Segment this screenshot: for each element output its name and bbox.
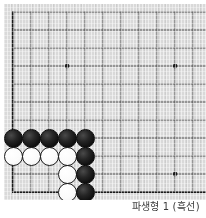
caption-prefix: 파생형 (132, 201, 160, 212)
caption-number: 1 (160, 201, 173, 212)
go-board[interactable] (4, 4, 206, 200)
caption-suffix: (흑선) (173, 201, 200, 212)
white-stone[interactable] (58, 165, 77, 184)
black-stone[interactable] (40, 129, 59, 148)
white-stone[interactable] (58, 147, 77, 166)
black-stone[interactable] (76, 147, 95, 166)
white-stone[interactable] (22, 147, 41, 166)
black-stone[interactable] (76, 129, 95, 148)
white-stone[interactable] (40, 147, 59, 166)
board-grid (4, 4, 206, 200)
black-stone[interactable] (4, 129, 23, 148)
black-stone[interactable] (58, 129, 77, 148)
black-stone[interactable] (76, 183, 95, 201)
figure-caption: 파생형1(흑선) (0, 200, 206, 213)
black-stone[interactable] (76, 165, 95, 184)
black-stone[interactable] (22, 129, 41, 148)
go-diagram-figure: 파생형1(흑선) (0, 0, 206, 218)
white-stone[interactable] (58, 183, 77, 201)
white-stone[interactable] (4, 147, 23, 166)
